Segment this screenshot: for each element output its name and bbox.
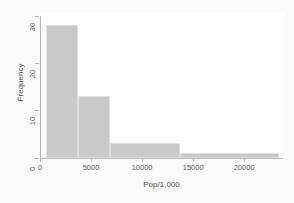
y-tick-label: 10: [26, 110, 40, 132]
histogram-figure: 0102030 05000100001500020000 Pop/1,000 F…: [0, 0, 294, 203]
x-tick-mark: [142, 158, 143, 162]
x-tick-label: 15000: [183, 163, 204, 172]
y-axis-title: Frequency: [16, 38, 25, 128]
x-axis-title: Pop/1,000: [40, 180, 283, 189]
x-tick-label: 0: [38, 163, 42, 172]
histogram-bar: [46, 25, 78, 157]
y-tick-label: 30: [26, 16, 40, 38]
histogram-bar: [78, 96, 111, 157]
bars-layer: [40, 13, 283, 158]
histogram-bar: [110, 143, 179, 157]
x-tick-mark: [91, 158, 92, 162]
x-tick-mark: [193, 158, 194, 162]
x-tick-mark: [40, 158, 41, 162]
x-tick-label: 10000: [132, 163, 153, 172]
x-tick-label: 5000: [83, 163, 100, 172]
y-tick-label: 20: [26, 63, 40, 85]
x-tick-label: 20000: [234, 163, 255, 172]
x-axis-ticks: 05000100001500020000: [0, 158, 294, 178]
x-tick-mark: [244, 158, 245, 162]
plot-area: [40, 13, 283, 158]
